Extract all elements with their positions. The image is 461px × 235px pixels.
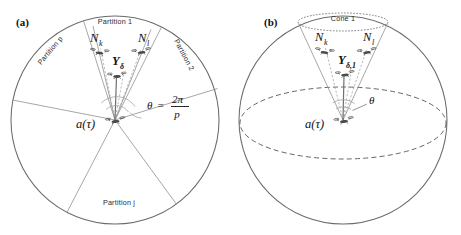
node-nl-subscript-a: l: [147, 39, 150, 48]
partition-j-label: Partition j: [103, 198, 135, 207]
node-y-delta-1-b: Y δ,1: [335, 53, 356, 78]
node-nl-label-a: N: [137, 31, 147, 45]
theta-symbol-b: θ: [369, 94, 375, 106]
node-nk-subscript-a: k: [99, 39, 103, 48]
drone-icon: [131, 47, 151, 56]
scientific-diagram: (a) Partition 1 Partition 2 Partition p …: [0, 0, 461, 235]
node-nk-subscript-b: k: [324, 38, 328, 47]
node-nk-label-b: N: [314, 30, 324, 44]
node-y-delta-subscript-a: δ: [120, 62, 124, 71]
node-agent-label-a: a(τ): [76, 117, 95, 131]
theta-equation-a: θ = 2π p: [147, 93, 189, 120]
theta-symbol-a: θ: [147, 99, 153, 111]
node-nl-label-b: N: [362, 30, 372, 44]
drone-icon: [335, 70, 355, 78]
node-nk-b: N k: [314, 30, 334, 56]
panel-a-label: (a): [16, 16, 29, 29]
panel-a: (a) Partition 1 Partition 2 Partition p …: [11, 16, 219, 224]
node-nk-a: N k: [89, 31, 109, 56]
theta-numerator-a: 2π: [172, 93, 184, 105]
node-nk-label-a: N: [89, 31, 99, 45]
theta-denominator-a: p: [173, 108, 180, 120]
figure-container: (a) Partition 1 Partition 2 Partition p …: [0, 0, 461, 235]
drone-icon: [357, 47, 377, 56]
y-delta-1-ray-b: [343, 76, 344, 121]
dashed-node-rays-b: [326, 48, 368, 120]
node-y-delta-1-subscript-b: δ,1: [346, 61, 356, 70]
node-nl-subscript-b: l: [372, 38, 375, 47]
equals-sign-a: =: [157, 99, 164, 111]
panel-b: (b) Cone 1 θ N k: [239, 13, 447, 224]
node-nl-a: N l: [131, 31, 151, 56]
theta-leader-b: [353, 104, 368, 111]
node-y-delta-a: Y δ: [107, 54, 127, 80]
cone-1-label: Cone 1: [331, 14, 355, 23]
partition-1-label: Partition 1: [98, 17, 133, 26]
y-delta-ray-a: [115, 77, 117, 120]
node-agent-b: a(τ): [305, 116, 354, 131]
node-agent-label-b: a(τ): [305, 117, 324, 131]
panel-b-label: (b): [264, 16, 278, 29]
drone-icon: [315, 47, 335, 56]
